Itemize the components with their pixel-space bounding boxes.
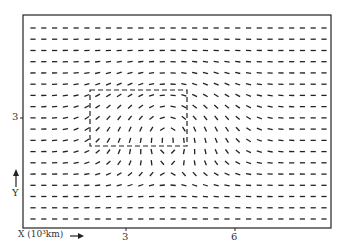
vector-arrow [183,149,184,154]
vector-arrow [95,185,100,186]
vector-arrow [95,72,100,73]
vector-arrow [138,83,143,85]
vector-arrow [203,185,208,187]
vector-arrow [226,127,229,131]
vector-arrow [84,73,89,74]
vector-arrow [129,138,130,143]
vector-arrow [74,140,79,142]
vector-arrow [257,174,262,175]
vector-arrow [181,185,186,186]
vector-arrow [52,118,57,119]
vector-arrow [171,106,176,107]
vector-arrow [203,94,208,97]
vector-arrow [278,106,283,107]
vector-arrow [224,185,229,186]
vector-arrows [30,28,326,219]
vector-arrow [74,73,79,74]
vector-arrow [192,61,197,62]
vector-arrow [96,139,100,143]
vector-arrow [171,95,176,96]
vector-arrow [117,173,121,176]
vector-arrow [160,106,165,107]
vector-arrow [63,129,68,130]
vector-arrow [215,127,218,132]
vector-arrow [139,172,143,176]
vector-arrow [151,149,152,154]
vector-arrow [107,127,110,131]
vector-arrow [117,196,122,197]
vector-arrow [181,84,186,85]
vector-arrow [63,106,68,107]
y-axis-label: Y [12,187,19,198]
vector-arrow [84,174,89,175]
vector-arrow [85,128,89,131]
vector-arrow [149,106,154,108]
vector-arrow [117,185,122,186]
vector-arrow [204,105,208,109]
vector-arrow [257,84,262,85]
vector-arrow [63,163,68,164]
vector-arrow [205,149,206,154]
vector-arrow [182,172,185,176]
vector-arrow [268,106,273,107]
vector-arrow [128,94,132,97]
vector-arrow [225,161,229,164]
vector-arrow [193,105,197,108]
vector-arrow [203,83,208,85]
vector-arrow [225,83,230,85]
vector-arrow [107,161,111,164]
vector-arrow [225,105,229,108]
vector-arrow [85,117,89,120]
vector-arrow [84,162,89,164]
vector-arrow [182,106,187,108]
vector-arrow [95,173,100,174]
vector-arrow [257,140,262,142]
vector-arrow [181,73,186,74]
vector-arrow [139,116,142,120]
vector-arrow [106,83,111,85]
vector-arrow [236,162,241,164]
vector-arrow [268,117,273,118]
vector-arrow [257,73,262,74]
vector-arrow [106,72,111,73]
vector-arrow [129,127,131,132]
vector-arrow [257,151,262,152]
vector-arrow [117,105,121,109]
vector-arrow [246,139,251,142]
vector-arrow [236,127,240,131]
vector-arrow [268,95,273,96]
vector-arrow [140,127,142,132]
vector-arrow [235,173,240,174]
vector-arrow [246,162,251,164]
vector-arrow [214,83,219,85]
vector-arrow [150,172,153,176]
vector-arrow [236,94,241,96]
vector-arrow [171,150,175,154]
vector-arrow [118,138,120,143]
vector-arrow [215,161,218,165]
vector-arrow [140,138,141,143]
vector-arrow [74,162,79,163]
vector-arrow [149,95,154,97]
vector-arrow [204,116,207,120]
vector-arrow [246,128,250,131]
vector-arrow [95,94,100,96]
vector-arrow [63,140,68,141]
vector-arrow [149,73,154,74]
vector-arrow [192,196,197,197]
y-tick-label-3: 3 [12,111,18,122]
vector-arrow [171,161,174,165]
vector-arrow [235,185,240,186]
vector-arrow [117,94,121,97]
vector-arrow [236,116,240,119]
vector-arrow [204,172,208,175]
vector-arrow [160,117,165,118]
vector-arrow [194,160,195,165]
vector-arrow [52,140,57,141]
vector-arrow [193,172,197,176]
vector-arrow [278,129,283,130]
vector-arrow [96,116,100,119]
vector-arrow [150,116,154,119]
vector-arrow [268,151,273,152]
vector-arrow [182,116,186,119]
